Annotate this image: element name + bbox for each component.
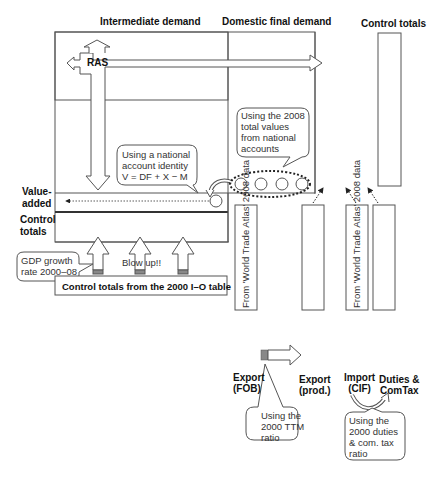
row-label-control-totals-2: totals (20, 226, 47, 237)
export-prod-label: Export (prod.) (299, 374, 331, 396)
ras-label: RAS (87, 57, 108, 68)
header-domestic-final-demand: Domestic final demand (222, 16, 331, 27)
import-cif-source: From 'World Trade Atlas' 2008 data (351, 160, 362, 308)
export-fob-source: From 'World Trade Atlas' 2008 data (240, 160, 251, 308)
callout-national-identity-text: Using a national account identity V = DF… (122, 149, 190, 182)
blow-up-label: Blow up!! (122, 257, 161, 268)
value-added-circle (210, 195, 222, 207)
import-cif-label: Import (CIF) (344, 372, 375, 394)
ttm-arrow (261, 345, 301, 365)
callout-gdp-text: GDP growth rate 2000–08 (21, 255, 77, 277)
diagram-canvas (0, 0, 433, 481)
row-label-control-totals-1: Control (20, 214, 56, 225)
duties-column (373, 205, 395, 310)
control-totals-column (378, 33, 401, 186)
blow-up-arrows (87, 237, 194, 274)
callout-national-accounts-text: Using the 2008 total values from nationa… (241, 110, 305, 154)
header-intermediate-demand: Intermediate demand (100, 16, 201, 27)
callout-ttm-text: Using the 2000 TTM ratio (261, 410, 304, 443)
callout-duties-text: Using the 2000 duties & com. tax ratio (349, 415, 398, 459)
export-prod-column (302, 205, 324, 310)
duties-comtax-label: Duties & ComTax (379, 374, 420, 396)
header-control-totals: Control totals (361, 18, 426, 29)
row-label-value-added-2: added (22, 198, 51, 209)
bottom-control-totals-label: Control totals from the 2000 I–O table (62, 281, 231, 292)
row-label-value-added-1: Value- (22, 186, 51, 197)
export-fob-label: Export (FOB) (233, 372, 265, 394)
